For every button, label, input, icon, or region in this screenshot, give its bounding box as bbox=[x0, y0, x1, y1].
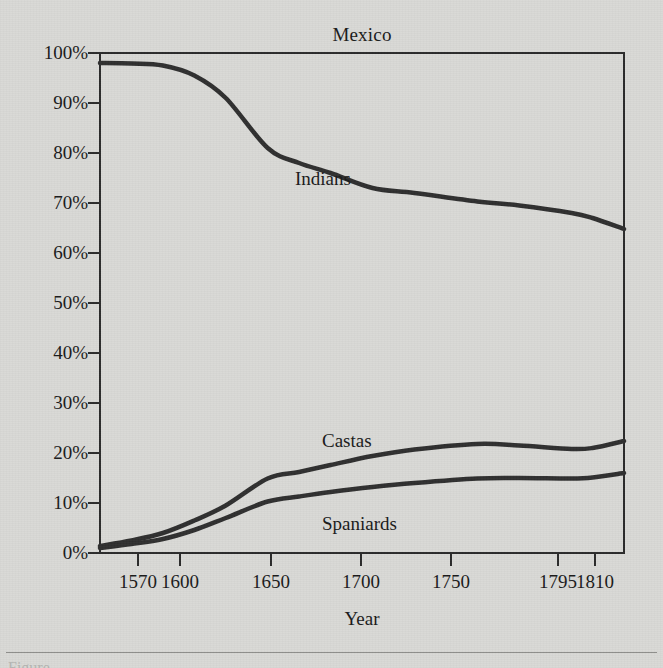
y-tick-label: 20% bbox=[8, 442, 88, 464]
x-tick-label: 1700 bbox=[342, 571, 380, 593]
y-tick-label: 100% bbox=[8, 42, 88, 64]
y-tick-label: 80% bbox=[8, 142, 88, 164]
x-axis-title: Year bbox=[100, 608, 624, 630]
series-line-spaniards bbox=[100, 473, 624, 548]
x-tick-label: 1650 bbox=[252, 571, 290, 593]
footer-divider bbox=[6, 652, 657, 653]
series-label-spaniards: Spaniards bbox=[322, 513, 397, 535]
x-axis-ticks bbox=[138, 553, 595, 566]
series-label-castas: Castas bbox=[322, 430, 372, 452]
y-tick-label: 30% bbox=[8, 392, 88, 414]
x-tick-label: 1750 bbox=[432, 571, 470, 593]
y-tick-label: 40% bbox=[8, 342, 88, 364]
y-tick-label: 60% bbox=[8, 242, 88, 264]
footer-caption-partial: Figure bbox=[8, 659, 659, 668]
y-tick-label: 0% bbox=[8, 542, 88, 564]
y-tick-label: 70% bbox=[8, 192, 88, 214]
y-tick-label: 10% bbox=[8, 492, 88, 514]
y-tick-label: 90% bbox=[8, 92, 88, 114]
series-curves bbox=[100, 63, 624, 548]
x-tick-label: 1570 bbox=[119, 571, 157, 593]
x-tick-label: 1795 bbox=[539, 571, 577, 593]
y-axis-ticks bbox=[88, 53, 100, 553]
series-label-indians: Indians bbox=[295, 168, 351, 190]
y-tick-label: 50% bbox=[8, 292, 88, 314]
chart-plot-area bbox=[0, 0, 663, 668]
x-tick-label: 1810 bbox=[576, 571, 614, 593]
figure-panel: Mexico 0%10%20%30%40%50%60%70%80%90%100%… bbox=[0, 0, 663, 668]
x-tick-label: 1600 bbox=[161, 571, 199, 593]
series-line-indians bbox=[100, 63, 624, 229]
